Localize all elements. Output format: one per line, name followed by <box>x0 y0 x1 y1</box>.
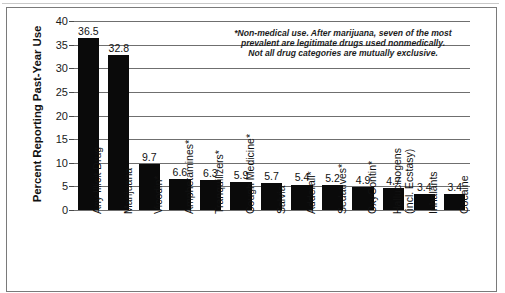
x-axis-category-label: Tranquilizers* <box>214 150 226 214</box>
x-axis-category-label: Salvia <box>276 185 288 214</box>
y-axis-tick-mark <box>69 163 74 164</box>
x-axis-category-label: Cough Medicine* <box>245 134 257 214</box>
x-axis-category-label-line: Inhalants <box>427 171 439 214</box>
x-axis-category-label-line: Any Illicit Drug <box>91 147 103 214</box>
x-axis-category-label-line: Marijuana <box>122 168 134 214</box>
y-axis-tick-label: 25 <box>46 87 68 98</box>
y-axis-tick-label: 0 <box>46 205 68 216</box>
x-axis-category-label: Adderall* <box>306 171 318 214</box>
x-axis-category-label-line: Hallucinogens <box>392 148 404 214</box>
x-axis-category-label-line: Amphetamines* <box>183 140 195 214</box>
y-axis-tick-mark <box>69 21 74 22</box>
annotation-line-3: Not all drug categories are mutually exc… <box>215 48 471 58</box>
y-axis-tick-label: 20 <box>46 111 68 122</box>
y-axis-tick-labels: 0510152025303540 <box>44 0 68 293</box>
y-axis-tick-label: 40 <box>46 16 68 27</box>
x-axis-category-label-line: Cocaine <box>458 175 470 214</box>
y-axis-tick-label: 15 <box>46 134 68 145</box>
x-axis-category-label: Cocaine <box>459 175 471 214</box>
x-axis-category-label: Vicodin* <box>153 176 165 214</box>
x-axis-category-label: Inhalants <box>428 171 440 214</box>
gridline <box>73 92 470 93</box>
x-axis-category-label-line: Vicodin* <box>152 176 164 214</box>
y-axis-tick-label: 10 <box>46 158 68 169</box>
annotation-line-2: prevalent are legitimate drugs used nonm… <box>215 38 471 48</box>
scan-artifact-line <box>2 3 499 4</box>
y-axis-tick-mark <box>69 186 74 187</box>
footnote-annotation: *Non-medical use. After marijuana, seven… <box>215 28 471 59</box>
bar-value-label: 36.5 <box>72 26 104 37</box>
bar-value-label: 9.7 <box>133 152 165 163</box>
x-axis-category-label-line: (incl. Ecstasy) <box>403 148 415 214</box>
x-axis-category-label-line: Sedatives* <box>336 164 348 214</box>
gridline <box>73 21 470 22</box>
y-axis-tick-mark <box>69 45 74 46</box>
annotation-line-1: *Non-medical use. After marijuana, seven… <box>215 28 471 38</box>
y-axis-tick-label: 35 <box>46 40 68 51</box>
y-axis-tick-mark <box>69 139 74 140</box>
bar-value-label: 5.7 <box>256 171 288 182</box>
bar-value-label: 32.8 <box>103 43 135 54</box>
x-axis-category-label: Marijuana <box>123 168 135 214</box>
gridline <box>73 139 470 140</box>
y-axis-tick-label: 5 <box>46 181 68 192</box>
y-axis-title: Percent Reporting Past-Year Use <box>31 14 43 214</box>
x-axis-category-label: OxyContin* <box>367 161 379 214</box>
x-axis-category-label: Hallucinogens(incl. Ecstasy) <box>392 148 415 214</box>
y-axis-tick-label: 30 <box>46 63 68 74</box>
x-axis-category-label: Sedatives* <box>337 164 349 214</box>
gridline <box>73 116 470 117</box>
x-axis-category-label-line: Cough Medicine* <box>244 134 256 214</box>
x-axis-category-label-line: Salvia <box>275 185 287 214</box>
y-axis-tick-mark <box>69 116 74 117</box>
x-axis-category-label: Amphetamines* <box>184 140 196 214</box>
y-axis-tick-mark <box>69 210 74 211</box>
x-axis-category-label: Any Illicit Drug <box>92 147 104 214</box>
y-axis-tick-mark <box>69 92 74 93</box>
x-axis-category-label-line: Adderall* <box>305 171 317 214</box>
y-axis-tick-mark <box>69 68 74 69</box>
x-axis-category-label-line: Tranquilizers* <box>213 150 225 214</box>
gridline <box>73 68 470 69</box>
x-axis-category-label-line: OxyContin* <box>366 161 378 214</box>
